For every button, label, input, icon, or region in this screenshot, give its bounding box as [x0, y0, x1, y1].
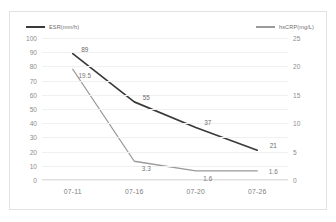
data-point-label: 19.5: [79, 72, 91, 79]
legend-label-hscrp: hsCRP(mg/L): [279, 24, 314, 30]
x-axis-tick: 07-26: [248, 188, 266, 195]
gridline: [42, 38, 288, 39]
series-line: [73, 69, 258, 171]
legend-item-hscrp[interactable]: hsCRP(mg/L): [256, 24, 314, 30]
y-axis-left-tick: 0: [33, 177, 37, 184]
y-axis-left-tick: 90: [30, 49, 37, 56]
y-axis-right-tick: 5: [293, 148, 297, 155]
y-axis-right-tick: 20: [293, 63, 300, 70]
x-axis: 07-1107-1607-2007-26: [42, 186, 288, 200]
data-point-label: 37: [204, 119, 211, 126]
legend-item-esr[interactable]: ESR(mm/h): [26, 24, 79, 30]
plot-area: 8955372119.53.31.61.6: [42, 38, 288, 180]
gridline: [42, 109, 288, 110]
x-axis-tick: 07-20: [187, 188, 205, 195]
gridline: [42, 152, 288, 153]
y-axis-left-tick: 60: [30, 91, 37, 98]
legend-label-esr: ESR(mm/h): [49, 24, 79, 30]
y-axis-left-tick: 80: [30, 63, 37, 70]
gridline: [42, 52, 288, 53]
y-axis-left-tick: 50: [30, 106, 37, 113]
x-axis-tick: 07-16: [125, 188, 143, 195]
gridline: [42, 95, 288, 96]
x-axis-tick: 07-11: [64, 188, 82, 195]
y-axis-left-tick: 70: [30, 77, 37, 84]
y-axis-left-tick: 20: [30, 148, 37, 155]
legend-swatch-hscrp-icon: [256, 26, 275, 28]
data-point-label: 3.3: [142, 165, 151, 172]
data-point-label: 21: [270, 142, 277, 149]
y-axis-right-tick: 0: [293, 177, 297, 184]
y-axis-left-tick: 30: [30, 134, 37, 141]
y-axis-left-tick: 100: [26, 35, 37, 42]
data-point-label: 1.6: [203, 174, 212, 181]
gridline: [42, 66, 288, 67]
y-axis-left-tick: 10: [30, 162, 37, 169]
gridline: [42, 166, 288, 167]
y-axis-left-tick: 40: [30, 120, 37, 127]
gridline: [42, 123, 288, 124]
data-point-label: 1.6: [269, 167, 278, 174]
y-axis-left: 1009080706050403020100: [10, 38, 37, 180]
legend-swatch-esr-icon: [26, 26, 45, 29]
gridline: [42, 81, 288, 82]
y-axis-right-tick: 10: [293, 120, 300, 127]
chart-container: ESR(mm/h) hsCRP(mg/L) 100908070605040302…: [9, 11, 327, 210]
series-line: [73, 54, 258, 151]
gridline: [42, 137, 288, 138]
y-axis-right: 2520151050: [293, 38, 323, 180]
data-point-label: 55: [143, 93, 150, 100]
axis-baseline: [42, 179, 288, 180]
data-point-label: 89: [81, 45, 88, 52]
gridline: [42, 180, 288, 181]
y-axis-right-tick: 15: [293, 91, 300, 98]
y-axis-right-tick: 25: [293, 35, 300, 42]
